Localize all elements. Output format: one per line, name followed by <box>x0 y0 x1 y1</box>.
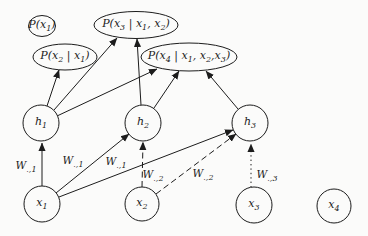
edge-x2-h2 <box>142 142 143 187</box>
input-node-x1 <box>24 186 60 222</box>
hidden-node-h3 <box>232 105 268 141</box>
hidden-node-h1 <box>23 105 59 141</box>
hidden-node-h2 <box>125 105 161 141</box>
edge-h2-p3 <box>137 39 141 105</box>
output-node-p4 <box>141 43 237 71</box>
input-node-x3 <box>236 187 272 223</box>
edge-h2-p4 <box>154 71 179 108</box>
nodes <box>23 12 351 224</box>
edge-h3-p4 <box>206 71 238 109</box>
edge-h1-p2 <box>47 70 59 106</box>
input-node-x2 <box>125 187 159 221</box>
output-node-p2 <box>33 44 97 70</box>
nade-network-diagram: P(x1) P(x2 | x1) P(x3 | x1, x2) P(x4 | x… <box>0 0 368 236</box>
edge-x2-h3 <box>156 134 236 194</box>
diagram-canvas <box>0 0 368 236</box>
output-node-p3 <box>94 12 178 39</box>
output-node-p1 <box>29 16 56 37</box>
input-node-x4 <box>317 189 351 223</box>
